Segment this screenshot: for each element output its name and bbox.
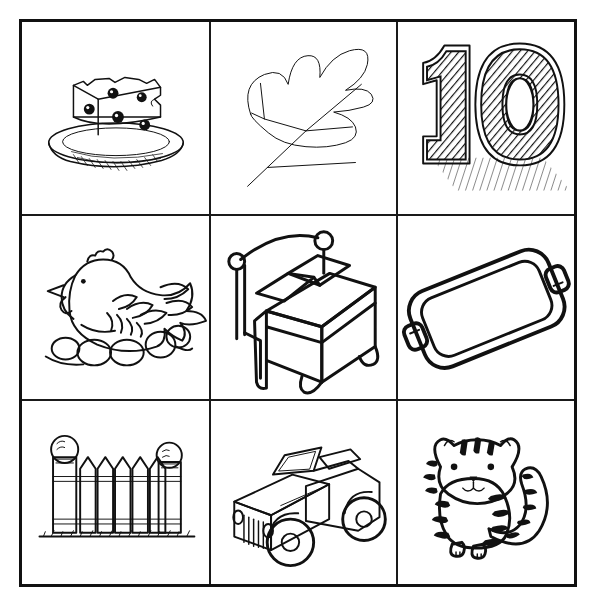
tray-drawing — [398, 216, 574, 399]
grid-cell-hen-on-nest[interactable]: Hen sitting on eggs — [22, 216, 211, 401]
number-ten-drawing — [398, 22, 574, 214]
grid-cell-tray[interactable]: Tray — [398, 216, 574, 401]
worksheet-page: Cheese wedge on a plate — [0, 0, 597, 607]
tabby-cat-drawing — [398, 401, 574, 584]
grid-cell-tabby-cat[interactable]: Cat — [398, 401, 574, 584]
picket-fence-drawing — [22, 401, 209, 584]
picture-grid: Cheese wedge on a plate — [19, 19, 577, 587]
jeep-drawing — [211, 401, 396, 584]
cheese-on-plate-drawing — [22, 22, 209, 214]
grid-cell-picket-fence[interactable]: Fence — [22, 401, 211, 584]
grid-cell-number-ten[interactable]: 10 — [398, 22, 574, 216]
leaf-drawing — [211, 22, 396, 214]
grid-cell-cheese-on-plate[interactable]: Cheese wedge on a plate — [22, 22, 211, 216]
grid-cell-bed[interactable]: Bed — [211, 216, 398, 401]
hen-on-nest-drawing — [22, 216, 209, 399]
grid-cell-jeep[interactable]: Jeep — [211, 401, 398, 584]
bed-drawing — [211, 216, 396, 399]
grid-cell-leaf[interactable]: Leaf — [211, 22, 398, 216]
